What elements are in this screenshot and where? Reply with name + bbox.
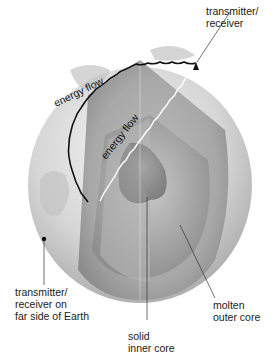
far-transmitter-icon <box>42 237 46 241</box>
far-transmitter-label: transmitter/ receiver on far side of Ear… <box>15 286 89 322</box>
inner-core-label: solid inner core <box>128 330 175 354</box>
outer-core-label: molten outer core <box>213 299 260 323</box>
earth-diagram: energy flow energy flow transmitter/ rec… <box>0 0 275 360</box>
top-transmitter-label: transmitter/ receiver <box>206 5 259 29</box>
